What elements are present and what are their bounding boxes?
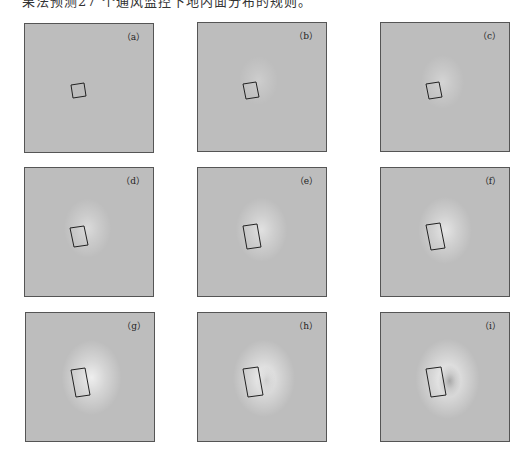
source-rectangle bbox=[198, 313, 327, 442]
panel-label: （f） bbox=[480, 174, 501, 187]
figure-panel-h: （h） bbox=[197, 312, 327, 442]
panel-label: （g） bbox=[122, 319, 146, 332]
source-rectangle bbox=[25, 168, 154, 297]
panel-label: （b） bbox=[294, 29, 318, 42]
source-rectangle bbox=[26, 313, 155, 442]
figure-panel-b: （b） bbox=[197, 22, 327, 152]
panel-label: （e） bbox=[295, 174, 318, 187]
source-rectangle bbox=[25, 24, 154, 153]
panel-label: （i） bbox=[480, 319, 501, 332]
figure-panel-i: （i） bbox=[380, 312, 510, 442]
source-rectangle bbox=[198, 168, 327, 297]
source-rectangle bbox=[381, 168, 510, 297]
figure-panel-c: （c） bbox=[380, 22, 510, 152]
figure-panel-e: （e） bbox=[197, 167, 327, 297]
figure-panel-d: （d） bbox=[24, 167, 154, 297]
panel-label: （d） bbox=[121, 174, 145, 187]
figure-panel-f: （f） bbox=[380, 167, 510, 297]
figure-panel-a: （a） bbox=[24, 23, 154, 153]
source-rectangle bbox=[381, 23, 510, 152]
panel-label: （c） bbox=[478, 29, 501, 42]
panel-label: （h） bbox=[294, 319, 318, 332]
panel-label: （a） bbox=[122, 30, 145, 43]
figure-panel-g: （g） bbox=[25, 312, 155, 442]
source-rectangle bbox=[381, 313, 510, 442]
caption-fragment: 果法预测27 个通风监控下地内面分布的规则。 bbox=[22, 0, 312, 10]
source-rectangle bbox=[198, 23, 327, 152]
